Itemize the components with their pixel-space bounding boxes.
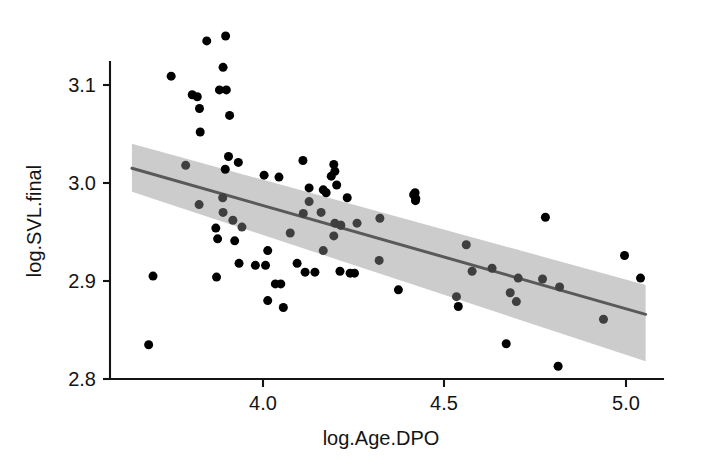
data-point — [279, 303, 288, 312]
data-point — [224, 152, 233, 161]
data-point — [263, 246, 272, 255]
data-point — [149, 272, 158, 281]
data-point — [462, 240, 471, 249]
y-tick-label-3.1: 3.1 — [68, 74, 96, 96]
data-point — [310, 268, 319, 277]
data-point — [636, 274, 645, 283]
data-point — [211, 224, 220, 233]
data-point — [506, 288, 515, 297]
data-point — [274, 173, 283, 182]
data-point — [317, 208, 326, 217]
data-point — [251, 261, 260, 270]
y-axis-title: log.SVL.final — [23, 165, 45, 277]
data-point — [195, 104, 204, 113]
data-point — [343, 193, 352, 202]
data-point — [305, 197, 314, 206]
x-tick-label-4.0: 4.0 — [249, 392, 277, 414]
y-tick-label-2.9: 2.9 — [68, 270, 96, 292]
data-point — [219, 63, 228, 72]
data-point — [299, 209, 308, 218]
data-point — [375, 214, 384, 223]
confidence-band-group — [132, 144, 646, 362]
data-point — [332, 180, 341, 189]
data-point — [219, 208, 228, 217]
data-point — [195, 200, 204, 209]
data-point — [305, 183, 314, 192]
data-point — [196, 128, 205, 137]
x-axis-title: log.Age.DPO — [323, 427, 440, 449]
data-point — [322, 188, 331, 197]
data-point — [329, 231, 338, 240]
x-tick-label-4.5: 4.5 — [430, 392, 458, 414]
data-point — [555, 282, 564, 291]
data-point — [218, 193, 227, 202]
data-point — [221, 32, 230, 41]
data-point — [620, 251, 629, 260]
data-point — [263, 296, 272, 305]
data-point — [319, 246, 328, 255]
data-point — [554, 362, 563, 371]
data-point — [538, 275, 547, 284]
data-point — [271, 279, 280, 288]
data-point — [394, 285, 403, 294]
data-point — [350, 269, 359, 278]
y-tick-label-3.0: 3.0 — [68, 172, 96, 194]
data-point — [375, 256, 384, 265]
data-point — [502, 339, 511, 348]
regression-line-group — [132, 168, 646, 314]
data-point — [512, 297, 521, 306]
regression-line — [132, 168, 646, 314]
data-point — [411, 194, 420, 203]
data-point — [213, 234, 222, 243]
data-point — [286, 228, 295, 237]
data-point — [336, 221, 345, 230]
data-point — [215, 85, 224, 94]
plot-canvas: 3.1 3.0 2.9 2.8 4.0 4.5 5.0 log.Age.DPO … — [0, 0, 708, 473]
data-point — [235, 259, 244, 268]
scatter-plot-figure: 3.1 3.0 2.9 2.8 4.0 4.5 5.0 log.Age.DPO … — [0, 0, 708, 473]
data-point — [144, 340, 153, 349]
data-point — [488, 264, 497, 273]
data-point — [353, 219, 362, 228]
data-point — [212, 273, 221, 282]
data-point — [260, 171, 269, 180]
data-point — [514, 274, 523, 283]
data-point — [541, 213, 550, 222]
data-point — [293, 259, 302, 268]
data-point — [228, 216, 237, 225]
x-tick-label-5.0: 5.0 — [612, 392, 640, 414]
data-point — [202, 36, 211, 45]
data-point — [230, 236, 239, 245]
data-point — [225, 111, 234, 120]
data-point — [193, 92, 202, 101]
data-point — [452, 292, 461, 301]
data-point — [335, 267, 344, 276]
confidence-band — [132, 144, 646, 362]
data-point — [301, 268, 310, 277]
data-point — [167, 72, 176, 81]
y-tick-label-2.8: 2.8 — [68, 368, 96, 390]
data-point — [261, 261, 270, 270]
data-point — [234, 158, 243, 167]
data-point — [330, 167, 339, 176]
data-point — [454, 302, 463, 311]
data-point — [599, 315, 608, 324]
data-point — [221, 165, 230, 174]
data-point — [237, 223, 246, 232]
data-point — [181, 161, 190, 170]
data-point — [468, 267, 477, 276]
data-point — [298, 156, 307, 165]
